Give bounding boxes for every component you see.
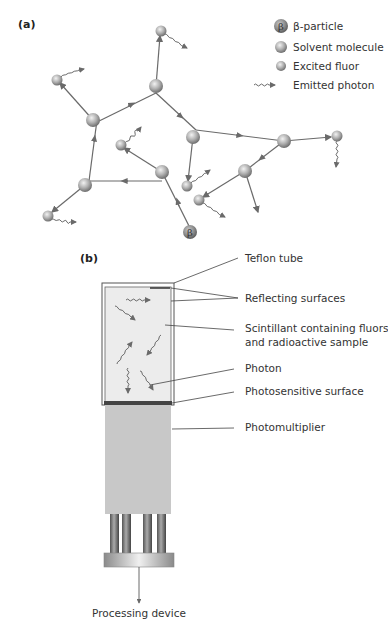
panel-b-label: (b) bbox=[80, 252, 98, 265]
reflecting-surfaces-label: Reflecting surfaces bbox=[245, 292, 345, 304]
photomultiplier-base bbox=[104, 553, 174, 567]
emitted-photon-icon bbox=[254, 84, 275, 86]
scintillant-label-line1: Scintillant containing fluors bbox=[245, 322, 388, 334]
scintillant-label-line2: and radioactive sample bbox=[245, 336, 368, 348]
solvent-molecules bbox=[78, 79, 291, 192]
panel-a-label: (a) bbox=[18, 18, 35, 31]
legend-fluor-label: Excited fluor bbox=[293, 60, 360, 72]
photomultiplier-body bbox=[105, 405, 171, 514]
legend-solvent-label: Solvent molecule bbox=[293, 41, 384, 53]
beta-particle-icon: β bbox=[274, 19, 288, 33]
svg-text:β: β bbox=[187, 227, 193, 238]
legend: β β-particle Solvent molecule Excited fl… bbox=[254, 19, 384, 91]
svg-text:β: β bbox=[278, 21, 284, 32]
legend-beta-label: β-particle bbox=[293, 20, 343, 32]
photomultiplier-pins bbox=[110, 514, 166, 553]
legend-photon-label: Emitted photon bbox=[293, 79, 374, 91]
photomultiplier-label: Photomultiplier bbox=[245, 421, 326, 433]
photosensitive-surface-label: Photosensitive surface bbox=[245, 385, 364, 397]
scintillant-chamber bbox=[105, 287, 171, 402]
processing-device-label: Processing device bbox=[92, 607, 186, 619]
beta-particle: β bbox=[183, 225, 197, 239]
photon-label: Photon bbox=[245, 362, 282, 374]
excited-fluor-icon bbox=[276, 61, 286, 71]
photosensitive-surface bbox=[104, 401, 172, 405]
teflon-tube-label: Teflon tube bbox=[244, 252, 303, 264]
solvent-molecule-icon bbox=[275, 41, 287, 53]
scintillation-diagram: (a) β β-particle Solvent molecule Excite… bbox=[0, 0, 388, 621]
